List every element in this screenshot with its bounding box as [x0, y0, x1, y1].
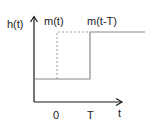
diagram-canvas: h(t) m(t) m(t-T) 0 T t	[0, 0, 150, 127]
x-tick-zero-label: 0	[53, 109, 59, 121]
step-delay-diagram: h(t) m(t) m(t-T) 0 T t	[0, 0, 150, 127]
x-tick-T-label: T	[87, 109, 94, 121]
original-step-dashed-line	[57, 32, 90, 79]
x-axis	[34, 99, 122, 106]
original-signal-label: m(t)	[44, 15, 64, 27]
y-axis	[31, 17, 38, 103]
shifted-step-line	[34, 32, 145, 79]
shifted-signal-label: m(t-T)	[87, 15, 117, 27]
y-axis-label: h(t)	[7, 18, 24, 30]
x-axis-label: t	[118, 107, 121, 119]
